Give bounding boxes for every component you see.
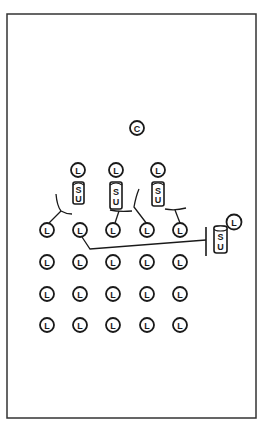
lamp-node: L	[106, 318, 120, 332]
lamp-label: L	[144, 258, 150, 268]
upper-unit-3: L S U	[151, 163, 165, 206]
lamp-node: L	[140, 318, 154, 332]
lamp-node: L	[40, 223, 54, 237]
lamp-label: L	[144, 321, 150, 331]
lamp-node: L	[40, 255, 54, 269]
lamp-node: L	[140, 287, 154, 301]
lamp-label: L	[144, 226, 150, 236]
unit-label-bottom: U	[217, 242, 224, 252]
lamp-node: L	[106, 223, 120, 237]
unit-label-bottom: U	[155, 195, 162, 205]
lamp-label: L	[44, 226, 50, 236]
lamp-label: L	[177, 258, 183, 268]
lamp-label: L	[77, 321, 83, 331]
lamp-label: L	[177, 226, 183, 236]
lamp-node: L	[73, 223, 87, 237]
lamp-label: L	[44, 258, 50, 268]
lamp-node: L	[106, 255, 120, 269]
lamp-node: L	[73, 318, 87, 332]
lamp-label: L	[144, 290, 150, 300]
lamp-label: L	[110, 226, 116, 236]
upper-unit-1: L S U	[71, 163, 85, 204]
lamp-label: L	[75, 166, 81, 176]
lamp-node: L	[40, 318, 54, 332]
lamp-node: L	[173, 287, 187, 301]
upper-unit-2: L S U	[109, 163, 123, 209]
lamp-node: L	[140, 255, 154, 269]
frame-border	[7, 14, 256, 418]
unit-label-bottom: U	[75, 194, 82, 204]
lamp-grid: LLLLLLLLLLLLLLLLLLLL	[40, 223, 187, 332]
right-unit: S U L	[214, 215, 242, 254]
central-node: C	[130, 121, 144, 135]
lamp-label: L	[177, 290, 183, 300]
lamp-node: L	[173, 318, 187, 332]
lamp-label: L	[110, 321, 116, 331]
unit-label-top: S	[217, 232, 223, 242]
lamp-node: L	[73, 287, 87, 301]
lamp-label: L	[77, 290, 83, 300]
lamp-label: L	[77, 226, 83, 236]
lamp-label: L	[77, 258, 83, 268]
lamp-node: L	[40, 287, 54, 301]
lamp-label: L	[177, 321, 183, 331]
lamp-label: L	[231, 218, 237, 228]
lamp-label: L	[110, 290, 116, 300]
central-node-label: C	[134, 124, 141, 134]
unit-label-top: S	[113, 187, 119, 197]
lamp-node: L	[173, 223, 187, 237]
unit-label-bottom: U	[113, 197, 120, 207]
lamp-node: L	[106, 287, 120, 301]
lamp-node: L	[140, 223, 154, 237]
lamp-node: L	[173, 255, 187, 269]
diagram-canvas: C L S U L S U L S U	[0, 0, 267, 435]
lamp-label: L	[110, 258, 116, 268]
lamp-node: L	[73, 255, 87, 269]
lamp-label: L	[44, 290, 50, 300]
lamp-label: L	[113, 166, 119, 176]
lamp-label: L	[155, 166, 161, 176]
lamp-label: L	[44, 321, 50, 331]
